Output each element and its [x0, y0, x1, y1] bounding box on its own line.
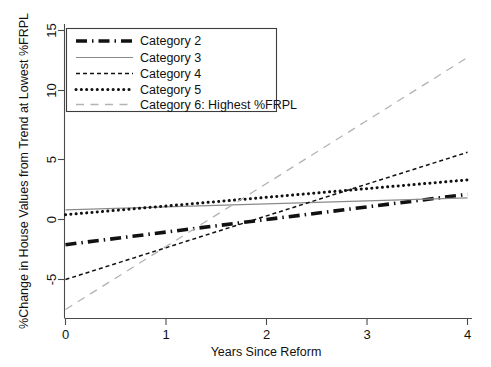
y-tick-label-10: 10 [44, 83, 59, 97]
series-line-5 [66, 180, 468, 215]
legend-label-category-4: Category 4 [140, 67, 201, 81]
x-tick-labels: 0 1 2 3 4 [62, 327, 471, 342]
chart-figure: 15 10 5 0 -5 %Change in House Values fro… [0, 0, 491, 367]
x-axis [65, 319, 473, 326]
x-tick-label-4: 4 [464, 327, 471, 342]
x-tick-label-3: 3 [363, 327, 370, 342]
x-tick-label-1: 1 [162, 327, 169, 342]
y-tick-label-0: 0 [44, 216, 59, 223]
y-tick-label-15: 15 [44, 23, 59, 37]
x-tick-label-0: 0 [62, 327, 69, 342]
legend-label-category-5: Category 5 [140, 83, 201, 97]
legend-label-category-2: Category 2 [140, 34, 201, 48]
line-chart-canvas: 15 10 5 0 -5 %Change in House Values fro… [0, 0, 491, 367]
y-tick-label-minus5: -5 [44, 274, 59, 286]
y-tick-label-5: 5 [44, 156, 59, 163]
series-line-2 [66, 194, 468, 244]
y-tick-labels: 15 10 5 0 -5 [44, 23, 59, 285]
legend-label-category-3: Category 3 [140, 51, 201, 65]
x-axis-title: Years Since Reform [211, 345, 322, 359]
series-line-4 [66, 152, 468, 279]
series-line-3 [66, 198, 468, 210]
y-axis [58, 24, 65, 318]
legend-label-category-6: Category 6: Highest %FRPL [140, 98, 297, 112]
y-axis-title: %Change in House Values from Trend at Lo… [17, 13, 31, 329]
x-tick-label-2: 2 [263, 327, 270, 342]
legend: Category 2 Category 3 Category 4 Categor… [67, 29, 298, 112]
